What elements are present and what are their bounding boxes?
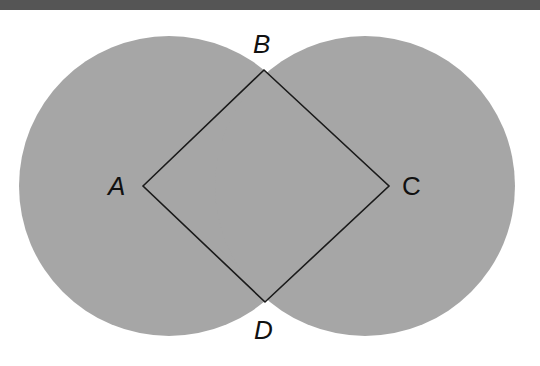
- label-b: B: [253, 29, 270, 59]
- label-d: D: [254, 315, 273, 345]
- label-c: C: [402, 171, 421, 201]
- circles-square-diagram: A B C D: [0, 0, 540, 366]
- right-circle: [215, 36, 515, 336]
- label-a: A: [106, 171, 125, 201]
- diagram-canvas: A B C D: [0, 0, 540, 366]
